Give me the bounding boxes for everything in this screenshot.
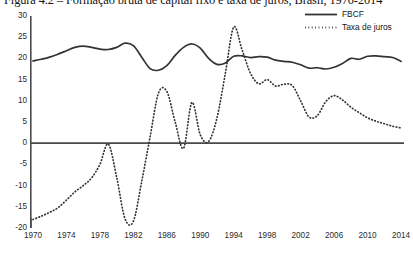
y-tick-label: 20 [3, 54, 27, 62]
tick-marks [31, 218, 401, 228]
axis-lines [30, 16, 404, 228]
y-tick-label: 0 [3, 139, 27, 147]
legend-swatch-dotted-icon [305, 23, 337, 32]
x-tick-label: 1986 [150, 232, 184, 240]
x-tick-label: 2006 [317, 232, 351, 240]
x-tick-label: 1974 [49, 232, 83, 240]
x-tick-label: 1994 [217, 232, 251, 240]
legend-swatch-solid-icon [305, 10, 337, 19]
x-axis: 1970197419781982198619901994199820022006… [30, 232, 404, 246]
y-tick-label: 5 [3, 118, 27, 126]
legend-label-taxa-de-juros: Taxa de juros [342, 23, 392, 32]
y-tick-label: 25 [3, 33, 27, 41]
y-tick-label: 15 [3, 76, 27, 84]
x-tick-label: 1970 [16, 232, 50, 240]
x-tick-label: 2002 [284, 232, 318, 240]
y-tick-label: -5 [3, 160, 27, 168]
y-tick-label: -10 [3, 182, 27, 190]
x-tick-label: 1978 [83, 232, 117, 240]
chart-canvas [30, 16, 404, 228]
series-line-taxa-de-juros [33, 27, 401, 226]
y-axis: 302520151050-5-10-15-20 [0, 16, 27, 228]
series-line-fbcf [33, 43, 401, 70]
figure-caption: Figura 4.2 – Formação bruta de capital f… [4, 0, 413, 7]
x-tick-label: 1990 [183, 232, 217, 240]
y-tick-label: -15 [3, 203, 27, 211]
figure-container: Figura 4.2 – Formação bruta de capital f… [0, 0, 413, 253]
x-tick-label: 2010 [351, 232, 385, 240]
legend-item-taxa-de-juros: Taxa de juros [305, 22, 411, 33]
legend: FBCF Taxa de juros [305, 9, 411, 35]
plot-area [30, 16, 404, 228]
x-tick-label: 1982 [116, 232, 150, 240]
x-tick-label: 2014 [384, 232, 413, 240]
y-tick-label: 10 [3, 97, 27, 105]
y-tick-label: 30 [3, 12, 27, 20]
legend-item-fbcf: FBCF [305, 9, 411, 20]
x-tick-label: 1998 [250, 232, 284, 240]
legend-label-fbcf: FBCF [342, 10, 364, 19]
